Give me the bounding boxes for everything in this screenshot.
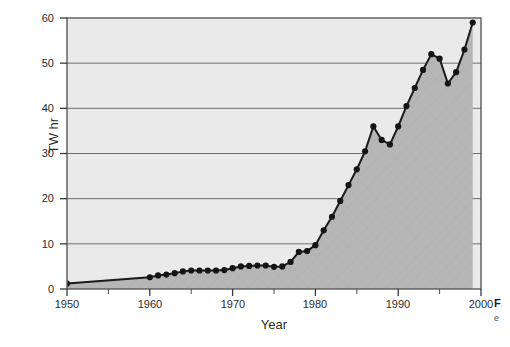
ytick-label-60: 60 xyxy=(24,13,54,24)
caption-fragment-subletter: e xyxy=(494,312,510,325)
xtick-label-1990: 1990 xyxy=(375,299,421,310)
caption-fragment-letter: F xyxy=(494,297,501,309)
ytick-label-10: 10 xyxy=(24,239,54,250)
x-axis-title: Year xyxy=(67,317,481,332)
figure-caption-fragment: F e xyxy=(494,296,510,325)
xtick-label-1950: 1950 xyxy=(44,299,90,310)
ytick-label-0: 0 xyxy=(24,284,54,295)
figure-container: 60 50 40 30 20 10 0 1950 1960 1970 1980 … xyxy=(0,0,510,347)
y-axis-ticks xyxy=(60,18,67,289)
x-axis-minor-ticks xyxy=(108,289,439,294)
y-axis-title: TW hr xyxy=(46,91,61,181)
xtick-label-1960: 1960 xyxy=(127,299,173,310)
xtick-label-1970: 1970 xyxy=(210,299,256,310)
xtick-label-1980: 1980 xyxy=(292,299,338,310)
chart-area-plot xyxy=(0,0,510,347)
ytick-label-20: 20 xyxy=(24,193,54,204)
ytick-label-50: 50 xyxy=(24,58,54,69)
